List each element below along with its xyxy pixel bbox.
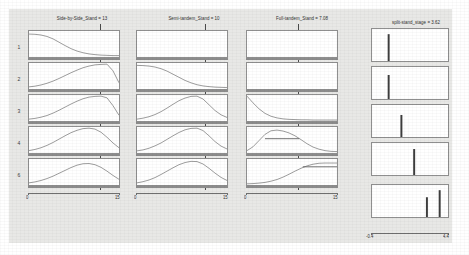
panel-shadow xyxy=(136,90,228,92)
column-title-semi-tandem: Semi-tandem_Stand = 10 xyxy=(140,16,248,22)
axis-tick-col2-min: 0 xyxy=(134,195,136,201)
trellis-panel xyxy=(371,184,449,218)
panel-shadow xyxy=(246,58,338,60)
axis-rule-col3 xyxy=(246,193,338,194)
trellis-panel xyxy=(246,126,338,154)
page-margin-bottom xyxy=(0,243,469,255)
trellis-panel xyxy=(371,142,449,176)
trellis-panel xyxy=(136,62,228,90)
response-curve xyxy=(29,164,119,183)
trellis-panel xyxy=(28,126,120,154)
response-curve xyxy=(29,64,119,87)
axis-tick-col2-max: 15 xyxy=(223,195,228,201)
response-curve xyxy=(29,96,119,119)
panel-shadow xyxy=(28,58,120,60)
panel-shadow xyxy=(136,186,228,188)
spike-bar xyxy=(388,34,390,61)
axis-tick-col4-min: -0.4 xyxy=(366,234,373,240)
trellis-panel xyxy=(28,30,120,58)
axis-tick-col3-min: 0 xyxy=(244,195,246,201)
column-title-split-stand: split-stand_stage = 3.62 xyxy=(372,20,460,26)
response-curve xyxy=(137,65,227,87)
trellis-panel xyxy=(136,126,228,154)
panel-shadow xyxy=(136,122,228,124)
figure-canvas: Side-by-Side_Stand = 13 Semi-tandem_Stan… xyxy=(0,0,469,255)
row-label-1: 1 xyxy=(14,44,24,51)
response-curve xyxy=(29,34,119,56)
axis-rule-col4 xyxy=(371,233,449,234)
column-title-full-tandem: Full-tandem_Stand = 7.08 xyxy=(250,16,354,22)
page-margin-right xyxy=(452,0,469,255)
panel-shadow xyxy=(28,122,120,124)
panel-shadow xyxy=(246,90,338,92)
trellis-panel xyxy=(246,158,338,186)
spike-bar xyxy=(413,149,415,175)
spike-bar xyxy=(400,115,402,137)
response-curve xyxy=(137,128,227,151)
row-label-6: 6 xyxy=(14,172,24,179)
trellis-panel xyxy=(136,94,228,122)
axis-rule-col2 xyxy=(136,193,228,194)
panel-shadow xyxy=(136,154,228,156)
response-curve xyxy=(137,161,227,183)
panel-shadow xyxy=(246,122,338,124)
trellis-panel xyxy=(28,158,120,186)
page-margin-top xyxy=(0,0,469,9)
page-margin-left xyxy=(0,0,9,255)
axis-tick-col4-max: 4.4 xyxy=(443,234,449,240)
trellis-panel xyxy=(246,62,338,90)
trellis-panel xyxy=(28,62,120,90)
panel-shadow xyxy=(28,186,120,188)
axis-tick-col3-max: 15 xyxy=(333,195,338,201)
column-title-side-by-side: Side-by-Side_Stand = 13 xyxy=(28,16,136,22)
response-curve xyxy=(247,163,337,184)
trellis-panel xyxy=(371,66,449,100)
panel-shadow xyxy=(28,154,120,156)
row-label-4: 4 xyxy=(14,140,24,147)
response-curve xyxy=(247,96,337,120)
axis-tick-col1-min: 0 xyxy=(26,195,28,201)
response-curve xyxy=(137,96,227,119)
spike-bar xyxy=(426,197,428,217)
trellis-panel xyxy=(136,158,228,186)
panel-shadow xyxy=(246,154,338,156)
spike-bar xyxy=(388,75,390,99)
trellis-panel xyxy=(246,94,338,122)
trellis-panel xyxy=(136,30,228,58)
response-curve xyxy=(247,130,337,152)
panel-shadow xyxy=(28,90,120,92)
axis-rule-col1 xyxy=(28,193,120,194)
trellis-panel xyxy=(28,94,120,122)
row-label-2: 2 xyxy=(14,76,24,83)
axis-tick-col1-max: 15 xyxy=(115,195,120,201)
response-curve xyxy=(29,128,119,150)
panel-shadow xyxy=(136,58,228,60)
trellis-panel xyxy=(371,104,449,138)
row-label-3: 3 xyxy=(14,108,24,115)
panel-shadow xyxy=(246,186,338,188)
spike-bar xyxy=(439,190,441,217)
trellis-panel xyxy=(371,28,449,62)
trellis-panel xyxy=(246,30,338,58)
